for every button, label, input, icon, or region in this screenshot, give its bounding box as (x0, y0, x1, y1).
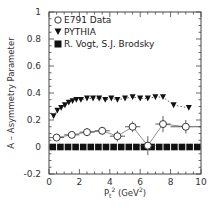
vogt-point (171, 144, 178, 151)
legend-e791: E791 Data (64, 15, 111, 25)
legend-vogt-brodsky: R. Vogt, S.J. Brodsky (64, 39, 155, 49)
legend-triangle-icon (55, 29, 62, 36)
y-axis-title: A – Asymmetry Parameter (6, 37, 16, 149)
e791-point (144, 142, 151, 149)
pythia-point (186, 105, 192, 111)
y-tick-label: 0 (35, 142, 41, 152)
vogt-point (95, 144, 102, 151)
e791-point (84, 129, 91, 136)
asymmetry-chart: 0246810-0.200.20.40.60.81 E791 Data PYTH… (0, 0, 219, 214)
y-tick-label: 0.4 (27, 88, 42, 98)
pythia-point (78, 97, 84, 103)
e791-point (182, 123, 189, 130)
pythia-point (102, 97, 108, 103)
x-tick-label: 10 (195, 177, 207, 187)
x-tick-label: 2 (77, 177, 83, 187)
vogt-point (194, 144, 201, 151)
y-tick-label: 0.2 (27, 115, 41, 125)
x-tick-label: 8 (168, 177, 174, 187)
e791-point (53, 134, 60, 141)
x-axis-title: Pt2 (GeV2) (104, 186, 146, 199)
vogt-point (50, 144, 57, 151)
vogt-point (57, 144, 64, 151)
vogt-point (164, 144, 171, 151)
legend-pythia: PYTHIA (64, 27, 97, 37)
x-label-sub: t (109, 192, 112, 199)
vogt-point (118, 144, 125, 151)
e791-point (99, 127, 106, 134)
e791-point (68, 131, 75, 138)
vogt-point (179, 144, 186, 151)
pythia-point (160, 94, 166, 100)
legend-square-icon (55, 41, 62, 48)
pythia-point (171, 102, 177, 108)
vogt-point (110, 144, 117, 151)
vogt-point (126, 144, 133, 151)
pythia-point (114, 97, 120, 103)
pythia-point (84, 96, 90, 102)
vogt-point (88, 144, 95, 151)
legend: E791 Data PYTHIA R. Vogt, S.J. Brodsky (55, 15, 156, 49)
vogt-point (133, 144, 140, 151)
y-tick-label: 0.8 (27, 34, 42, 44)
pythia-point (152, 94, 158, 100)
pythia-point (108, 96, 114, 102)
pythia-point (51, 113, 57, 119)
x-tick-label: 0 (46, 177, 52, 187)
x-label-unit: (GeV (115, 188, 139, 198)
vogt-point (65, 144, 72, 151)
vogt-point (72, 144, 79, 151)
pythia-point (54, 108, 60, 114)
plot-area (49, 94, 201, 155)
vogt-point (80, 144, 87, 151)
y-tick-label: -0.2 (23, 169, 41, 179)
e791-point (160, 121, 167, 128)
pythia-point (122, 96, 128, 102)
e791-point (114, 133, 121, 140)
y-tick-label: 1 (35, 7, 41, 17)
e791-point (129, 123, 136, 130)
vogt-point (156, 144, 163, 151)
y-tick-label: 0.6 (27, 61, 42, 71)
legend-open-circle-icon (55, 17, 61, 23)
x-label-close: ) (143, 188, 146, 198)
vogt-point (103, 144, 110, 151)
vogt-point (186, 144, 193, 151)
